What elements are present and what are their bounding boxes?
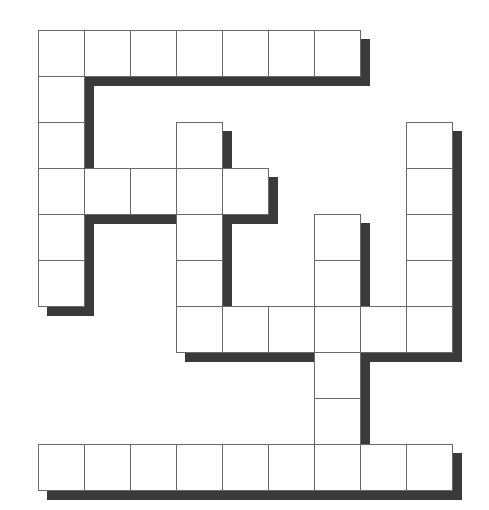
grid-cell[interactable]	[176, 306, 223, 353]
grid-cell[interactable]	[176, 214, 223, 261]
grid-cell[interactable]	[268, 30, 315, 77]
grid-cell[interactable]	[222, 444, 269, 491]
grid-cell[interactable]	[406, 444, 453, 491]
grid-cell[interactable]	[38, 168, 85, 215]
grid-cell[interactable]	[130, 168, 177, 215]
grid-cell[interactable]	[360, 444, 407, 491]
grid-cell[interactable]	[406, 122, 453, 169]
grid-cell[interactable]	[314, 260, 361, 307]
grid-cell[interactable]	[84, 30, 131, 77]
grid-cell[interactable]	[38, 30, 85, 77]
crossword-grid	[0, 0, 489, 510]
grid-cell[interactable]	[176, 168, 223, 215]
grid-cell[interactable]	[176, 122, 223, 169]
grid-cell[interactable]	[314, 398, 361, 445]
grid-cell[interactable]	[38, 214, 85, 261]
grid-cell[interactable]	[314, 214, 361, 261]
grid-cell[interactable]	[130, 444, 177, 491]
grid-cell[interactable]	[38, 260, 85, 307]
grid-cell[interactable]	[176, 260, 223, 307]
grid-cell[interactable]	[268, 444, 315, 491]
grid-cell[interactable]	[222, 306, 269, 353]
grid-cell[interactable]	[222, 30, 269, 77]
grid-cell[interactable]	[406, 214, 453, 261]
grid-cell[interactable]	[176, 30, 223, 77]
grid-cell[interactable]	[314, 444, 361, 491]
grid-cell[interactable]	[130, 30, 177, 77]
grid-cell[interactable]	[406, 260, 453, 307]
grid-cell[interactable]	[84, 168, 131, 215]
grid-cell[interactable]	[314, 306, 361, 353]
grid-cell[interactable]	[222, 168, 269, 215]
grid-cell[interactable]	[314, 352, 361, 399]
grid-cell[interactable]	[314, 30, 361, 77]
grid-cell[interactable]	[268, 306, 315, 353]
grid-cell[interactable]	[38, 76, 85, 123]
grid-cell[interactable]	[406, 306, 453, 353]
grid-cell[interactable]	[84, 444, 131, 491]
grid-cell[interactable]	[360, 306, 407, 353]
grid-cell[interactable]	[38, 122, 85, 169]
grid-cell[interactable]	[406, 168, 453, 215]
grid-cell[interactable]	[176, 444, 223, 491]
grid-cell[interactable]	[38, 444, 85, 491]
